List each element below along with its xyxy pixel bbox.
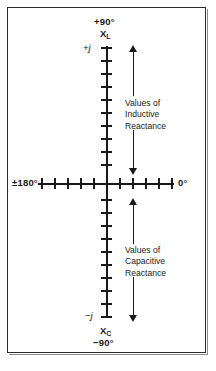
tick-vertical-up (101, 112, 112, 114)
tick-vertical-up (101, 73, 112, 75)
tick-horizontal-right (132, 178, 134, 189)
annotation-capacitive-line-1: Values of (125, 245, 166, 256)
tick-vertical-down (101, 264, 112, 266)
tick-vertical-down (101, 225, 112, 227)
tick-vertical-down (101, 212, 112, 214)
tick-vertical-up (101, 86, 112, 88)
annotation-capacitive-line-3: Reactance (125, 268, 166, 279)
annotation-inductive-reactance: Values of Inductive Reactance (125, 98, 166, 132)
figure-container: +90° XL +j ±180° 0° −j XC −90° Values of… (0, 0, 216, 371)
tick-vertical-up (101, 47, 112, 49)
tick-vertical-down (101, 199, 112, 201)
arrow-shaft-inductive-down (133, 130, 134, 170)
arrow-down-icon-capacitive (129, 315, 137, 322)
tick-vertical-up (101, 125, 112, 127)
annotation-capacitive-reactance: Values of Capacitive Reactance (125, 245, 166, 279)
tick-horizontal-right (158, 178, 160, 189)
arrow-down-icon-inductive (129, 168, 137, 175)
tick-horizontal-left (41, 178, 43, 189)
tick-horizontal-left (67, 178, 69, 189)
annotation-inductive-line-1: Values of (125, 98, 166, 109)
tick-horizontal-left (93, 178, 95, 189)
tick-vertical-down (101, 290, 112, 292)
axis-label-plus-90-degrees: +90° (94, 17, 115, 27)
tick-vertical-down (101, 238, 112, 240)
tick-vertical-down (101, 277, 112, 279)
tick-vertical-down (101, 303, 112, 305)
annotation-inductive-line-2: Inductive (125, 109, 166, 120)
tick-vertical-up (101, 99, 112, 101)
tick-horizontal-left (80, 178, 82, 189)
annotation-capacitive-line-2: Capacitive (125, 256, 166, 267)
tick-vertical-up (101, 138, 112, 140)
arrow-shaft-capacitive-down (133, 277, 134, 317)
axis-label-plus-j: +j (83, 43, 91, 53)
axis-label-zero-degrees: 0° (178, 178, 187, 188)
tick-horizontal-right (119, 178, 121, 189)
tick-vertical-down (101, 251, 112, 253)
horizontal-axis-line (38, 183, 174, 185)
annotation-inductive-line-3: Reactance (125, 121, 166, 132)
tick-vertical-up (101, 60, 112, 62)
axis-label-minus-90-degrees: −90° (93, 338, 114, 348)
axis-symbol-inductive-reactance: XL (100, 29, 111, 40)
tick-horizontal-right (171, 178, 173, 189)
axis-symbol-capacitive-reactance: XC (100, 326, 111, 337)
tick-horizontal-left (54, 178, 56, 189)
symbol-subscript-l: L (106, 33, 110, 40)
axis-label-minus-j: −j (85, 311, 93, 321)
tick-horizontal-right (145, 178, 147, 189)
arrow-shaft-capacitive-up (133, 204, 134, 244)
tick-vertical-up (101, 164, 112, 166)
symbol-subscript-c: C (106, 330, 111, 337)
tick-vertical-down (101, 316, 112, 318)
arrow-shaft-inductive-up (133, 51, 134, 96)
tick-vertical-up (101, 151, 112, 153)
axis-label-plus-minus-180-degrees: ±180° (12, 178, 38, 188)
